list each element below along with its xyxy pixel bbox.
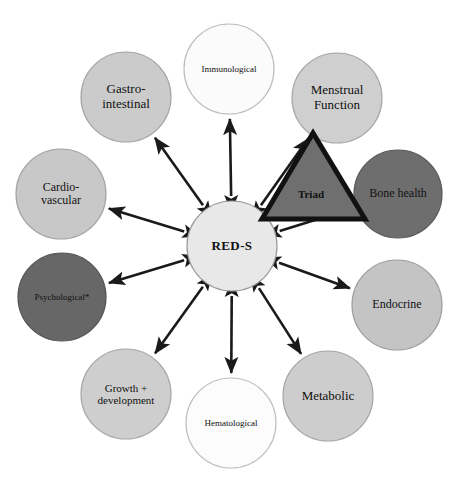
spoke-arrow-metabolic <box>259 288 301 354</box>
node-circle-immunological[interactable] <box>184 24 274 114</box>
node-circle-cardiovascular[interactable] <box>16 149 106 239</box>
node-circle-gastro-intestinal[interactable] <box>81 52 171 142</box>
node-circle-growth-development[interactable] <box>81 349 171 439</box>
triad-triangle[interactable] <box>262 133 365 219</box>
node-circle-metabolic[interactable] <box>283 351 373 441</box>
node-circle-endocrine[interactable] <box>352 260 442 350</box>
spoke-arrow-cardiovascular <box>109 209 184 232</box>
spoke-arrow-gastro-intestinal <box>155 138 203 206</box>
spoke-arrow-endocrine <box>279 263 350 288</box>
spoke-arrow-psychological <box>109 260 184 283</box>
red-s-consequences-diagram <box>0 0 457 483</box>
spoke-arrow-growth-development <box>155 287 203 354</box>
node-circle-menstrual-function[interactable] <box>292 53 382 143</box>
node-circle-psychological[interactable] <box>18 253 106 341</box>
triad-triangle-layer <box>262 133 365 219</box>
node-circle-bone-health[interactable] <box>354 150 442 238</box>
node-circle-layer <box>16 24 442 468</box>
spoke-arrow-immunological <box>230 119 231 196</box>
node-circle-hematological[interactable] <box>186 378 276 468</box>
